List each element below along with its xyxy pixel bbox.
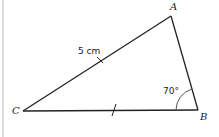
vertex-label-b: B [200,112,207,122]
side-CA [23,16,171,111]
triangle-figure [0,0,219,137]
side-length-label: 5 cm [78,47,100,56]
side-CB [23,110,198,111]
vertex-label-a: A [170,2,177,12]
vertex-label-c: C [12,106,20,116]
angle-label: 70° [163,87,179,96]
triangle-diagram: A B C 5 cm 70° [0,0,219,137]
